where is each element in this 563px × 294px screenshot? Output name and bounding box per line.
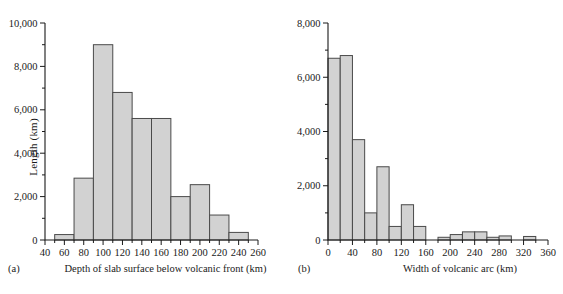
x-tick-label: 200 (192, 247, 208, 258)
x-tick-label: 160 (418, 247, 434, 258)
histogram-bar (152, 118, 171, 240)
histogram-bar (113, 92, 132, 240)
histogram-bar (210, 215, 229, 240)
histogram-bar (352, 140, 364, 240)
histogram-bar (190, 185, 209, 240)
y-tick-label: 0 (315, 235, 320, 246)
y-tick-label: 6,000 (297, 72, 321, 83)
x-tick-label: 200 (442, 247, 458, 258)
y-tick-label: 6,000 (14, 104, 38, 115)
histogram-bar (414, 226, 426, 240)
panel-a-plot: 02,0004,0006,0008,00010,0004060801001201… (0, 0, 290, 294)
y-tick-label: 8,000 (14, 61, 38, 72)
panel-a-y-axis-title: Length (km) (27, 118, 39, 176)
histogram-bar (74, 178, 93, 240)
histogram-bar (389, 226, 401, 240)
y-tick-label: 0 (32, 235, 37, 246)
x-tick-label: 80 (372, 247, 383, 258)
panel-b-plot: 02,0004,0006,0008,0000408012016020024028… (290, 0, 563, 294)
x-tick-label: 120 (393, 247, 409, 258)
x-tick-label: 320 (516, 247, 532, 258)
histogram-bar (377, 167, 389, 240)
x-axis-title: Depth of slab surface below volcanic fro… (64, 263, 267, 275)
histogram-bar (93, 45, 112, 240)
histogram-bar (132, 118, 151, 240)
panel-a: Length (km) 02,0004,0006,0008,00010,0004… (0, 0, 290, 294)
y-tick-label: 8,000 (297, 18, 321, 29)
histogram-bar (340, 56, 352, 240)
panel-letter: (a) (8, 263, 20, 275)
bars-group (55, 45, 249, 240)
histogram-bar (462, 232, 474, 240)
y-tick-label: 2,000 (14, 191, 38, 202)
panel-b: 02,0004,0006,0008,0000408012016020024028… (290, 0, 563, 294)
x-tick-label: 40 (347, 247, 358, 258)
x-tick-label: 40 (40, 247, 51, 258)
y-tick-label: 10,000 (9, 18, 38, 29)
y-tick-label: 2,000 (297, 180, 321, 191)
histogram-bar (328, 58, 340, 240)
x-tick-label: 120 (115, 247, 131, 258)
figure-container: Length (km) 02,0004,0006,0008,00010,0004… (0, 0, 563, 294)
histogram-bar (229, 232, 248, 240)
x-tick-label: 100 (95, 247, 111, 258)
histogram-bar (401, 205, 413, 240)
x-axis-title: Width of volcanic arc (km) (403, 263, 517, 275)
x-tick-label: 160 (153, 247, 169, 258)
histogram-bar (475, 232, 487, 240)
x-tick-label: 0 (325, 247, 330, 258)
histogram-bar (55, 235, 74, 240)
bars-group (328, 56, 536, 240)
histogram-bar (171, 197, 190, 240)
x-tick-label: 180 (173, 247, 189, 258)
x-tick-label: 240 (231, 247, 247, 258)
y-tick-label: 4,000 (297, 126, 321, 137)
x-tick-label: 220 (211, 247, 227, 258)
x-tick-label: 260 (250, 247, 266, 258)
x-tick-label: 60 (59, 247, 70, 258)
x-tick-label: 80 (78, 247, 89, 258)
x-tick-label: 240 (467, 247, 483, 258)
x-tick-label: 280 (491, 247, 507, 258)
histogram-bar (499, 236, 511, 240)
x-tick-label: 140 (134, 247, 150, 258)
histogram-bar (365, 213, 377, 240)
panel-letter: (b) (298, 263, 311, 275)
x-tick-label: 360 (540, 247, 556, 258)
histogram-bar (450, 235, 462, 240)
